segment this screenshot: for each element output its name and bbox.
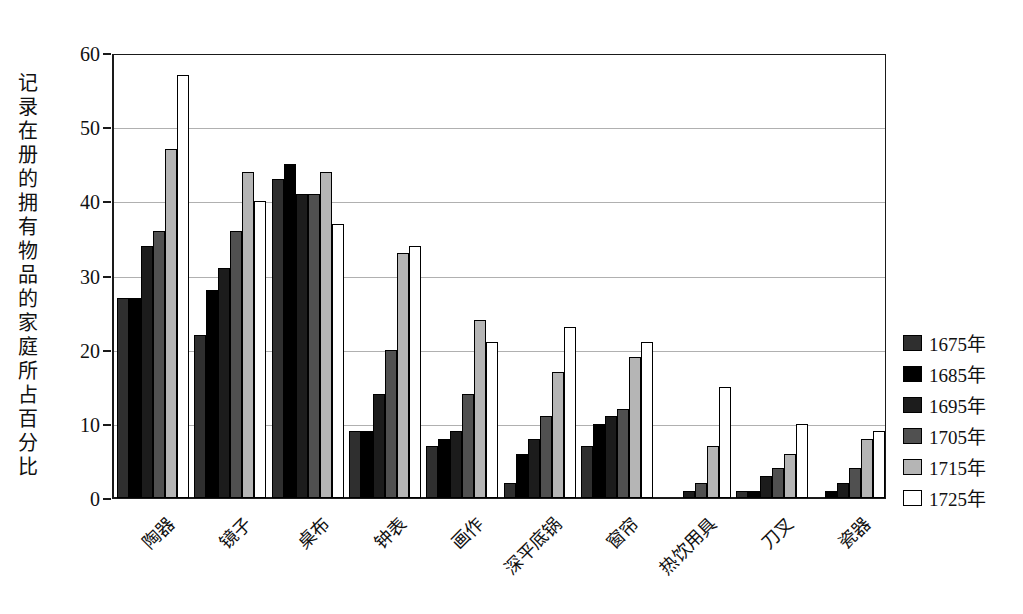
bar-1725年-刀叉 [796,424,808,498]
legend-item-1705年: 1705年 [903,420,986,451]
bar-1715年-窗帘 [629,357,641,498]
bar-1675年-陶器 [117,298,129,498]
y-tick-mark [103,201,111,203]
legend-label-1705年: 1705年 [929,422,986,449]
bar-1685年-窗帘 [593,424,605,498]
bar-1685年-瓷器 [825,491,837,498]
bar-1705年-钟表 [385,350,397,498]
legend-item-1715年: 1715年 [903,451,986,482]
legend-swatch-1725年 [903,490,922,506]
y-tick-label: 40 [54,191,100,213]
legend-swatch-1675年 [903,335,922,351]
plot-area [112,54,886,499]
bar-1725年-陶器 [177,75,189,498]
y-tick-label: 20 [54,340,100,362]
y-tick-mark [103,127,111,129]
legend-item-1725年: 1725年 [903,482,986,513]
x-label-桌布: 桌布 [290,510,334,554]
x-label-深平底锅: 深平底锅 [497,510,566,579]
bar-1695年-热饮用具 [683,491,695,498]
bar-1705年-陶器 [153,231,165,498]
bar-1695年-钟表 [373,394,385,498]
x-label-画作: 画作 [445,510,489,554]
bar-1675年-窗帘 [581,446,593,498]
bar-1715年-陶器 [165,149,177,498]
y-tick-label: 0 [54,488,100,510]
bar-1705年-画作 [462,394,474,498]
bar-1725年-窗帘 [641,342,653,498]
bar-1675年-镜子 [194,335,206,498]
bar-1675年-画作 [426,446,438,498]
legend-item-1695年: 1695年 [903,389,986,420]
bar-1695年-镜子 [218,268,230,498]
bar-1685年-陶器 [129,298,141,498]
bar-1705年-刀叉 [772,468,784,498]
bar-1675年-深平底锅 [504,483,516,498]
bar-1685年-深平底锅 [516,454,528,499]
gridline-40 [114,202,885,203]
legend-label-1685年: 1685年 [929,360,986,387]
bar-1725年-钟表 [409,246,421,498]
bar-1695年-画作 [450,431,462,498]
x-label-陶器: 陶器 [135,510,179,554]
legend-label-1725年: 1725年 [929,484,986,511]
bar-1715年-画作 [474,320,486,498]
bar-1725年-深平底锅 [564,327,576,498]
bar-1725年-桌布 [332,224,344,498]
x-label-刀叉: 刀叉 [754,510,798,554]
bar-1705年-镜子 [230,231,242,498]
bar-1715年-热饮用具 [707,446,719,498]
bar-1685年-刀叉 [748,491,760,498]
y-tick-mark [103,350,111,352]
bar-1705年-深平底锅 [540,416,552,498]
bar-1685年-镜子 [206,290,218,498]
bar-1725年-瓷器 [873,431,885,498]
bar-1695年-桌布 [296,194,308,498]
bar-1715年-镜子 [242,172,254,498]
legend-swatch-1685年 [903,366,922,382]
bar-1715年-桌布 [320,172,332,498]
bar-chart-figure: 记录在册的拥有物品的家庭所占百分比 0102030405060 陶器镜子桌布钟表… [0,0,1023,614]
bar-1675年-钟表 [349,431,361,498]
bar-1685年-画作 [438,439,450,498]
bar-1695年-瓷器 [837,483,849,498]
y-tick-mark [103,424,111,426]
bar-1695年-深平底锅 [528,439,540,498]
x-label-镜子: 镜子 [213,510,257,554]
bar-1695年-窗帘 [605,416,617,498]
x-label-钟表: 钟表 [367,510,411,554]
bar-1695年-刀叉 [760,476,772,498]
bar-1675年-刀叉 [736,491,748,498]
legend-label-1675年: 1675年 [929,329,986,356]
legend-swatch-1695年 [903,397,922,413]
bar-1705年-窗帘 [617,409,629,498]
bar-1675年-桌布 [272,179,284,498]
legend-item-1675年: 1675年 [903,327,986,358]
bar-1705年-热饮用具 [695,483,707,498]
legend-label-1695年: 1695年 [929,391,986,418]
bar-1725年-镜子 [254,201,266,498]
legend-item-1685年: 1685年 [903,358,986,389]
y-tick-label: 60 [54,43,100,65]
bar-1705年-桌布 [308,194,320,498]
y-tick-mark [103,276,111,278]
gridline-50 [114,128,885,129]
x-label-窗帘: 窗帘 [600,510,644,554]
legend-swatch-1715年 [903,459,922,475]
bar-1715年-刀叉 [784,454,796,499]
y-tick-mark [103,498,111,500]
y-tick-mark [103,53,111,55]
legend-label-1715年: 1715年 [929,453,986,480]
y-tick-label: 10 [54,414,100,436]
y-tick-label: 30 [54,266,100,288]
y-axis-label: 记录在册的拥有物品的家庭所占百分比 [12,72,41,492]
x-label-瓷器: 瓷器 [832,510,876,554]
legend-swatch-1705年 [903,428,922,444]
bar-1725年-画作 [486,342,498,498]
x-label-热饮用具: 热饮用具 [652,510,721,579]
bar-1715年-钟表 [397,253,409,498]
bar-1725年-热饮用具 [719,387,731,498]
bar-1715年-瓷器 [861,439,873,498]
bar-1695年-陶器 [141,246,153,498]
bar-1715年-深平底锅 [552,372,564,498]
